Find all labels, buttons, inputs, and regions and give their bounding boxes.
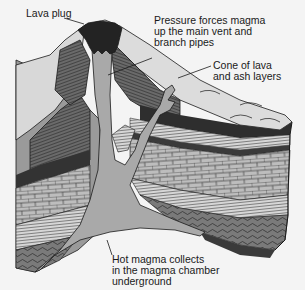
label-pressure-forces-magma: Pressure forces magma up the main vent a… xyxy=(154,15,265,48)
label-magma-chamber: Hot magma collects in the magma chamber … xyxy=(112,254,219,287)
label-lava-plug: Lava plug xyxy=(26,8,72,19)
label-cone-of-lava: Cone of lava and ash layers xyxy=(213,60,281,82)
